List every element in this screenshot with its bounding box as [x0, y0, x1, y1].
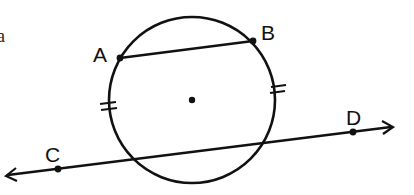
geometry-diagram: a A B C D [0, 0, 414, 195]
chord-ab [120, 41, 253, 58]
point-b [250, 38, 257, 45]
line-cd [8, 127, 391, 175]
label-d: D [346, 106, 361, 129]
point-d [350, 129, 357, 136]
point-c [55, 166, 62, 173]
congruence-mark-right [270, 85, 286, 93]
label-b: B [261, 21, 275, 44]
label-a: A [93, 43, 107, 66]
point-a [117, 55, 124, 62]
center-point [189, 97, 195, 103]
label-c: C [45, 143, 60, 166]
text-fragment: a [0, 26, 5, 46]
